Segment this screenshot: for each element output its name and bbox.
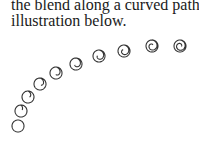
spiral-shape	[93, 50, 105, 62]
spiral-shape	[22, 91, 34, 103]
spiral-shape	[146, 40, 158, 52]
spiral-shape	[15, 105, 27, 117]
spiral-shape	[70, 58, 82, 70]
spiral-shape	[50, 67, 62, 79]
circle-shape	[12, 120, 24, 132]
blend-illustration	[0, 0, 199, 141]
spiral-shape	[118, 45, 130, 57]
spiral-shape	[174, 40, 186, 52]
spiral-shape	[34, 78, 46, 90]
